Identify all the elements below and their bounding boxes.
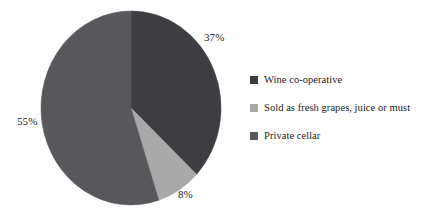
legend-swatch-icon (250, 132, 258, 140)
pie-chart-figure: 37% 55% 8% (0, 0, 240, 216)
legend-swatch-icon (250, 104, 258, 112)
chart-legend: Wine co-operative Sold as fresh grapes, … (250, 74, 426, 141)
slice-data-label-private-cellar: 55% (17, 115, 37, 127)
legend-swatch-icon (250, 76, 258, 84)
legend-item-wine-cooperative[interactable]: Wine co-operative (250, 74, 426, 85)
legend-item-fresh-grapes[interactable]: Sold as fresh grapes, juice or must (250, 102, 426, 113)
legend-item-label: Sold as fresh grapes, juice or must (264, 102, 410, 113)
pie-chart-screenshot: 37% 55% 8% Wine co-operative Sold as fre… (0, 0, 427, 216)
slice-data-label-fresh-grapes: 8% (178, 188, 193, 200)
legend-item-private-cellar[interactable]: Private cellar (250, 130, 426, 141)
pie-slice-group (41, 11, 221, 205)
legend-item-label: Wine co-operative (264, 74, 342, 85)
slice-data-label-wine-cooperative: 37% (204, 31, 224, 43)
legend-item-label: Private cellar (264, 130, 320, 141)
